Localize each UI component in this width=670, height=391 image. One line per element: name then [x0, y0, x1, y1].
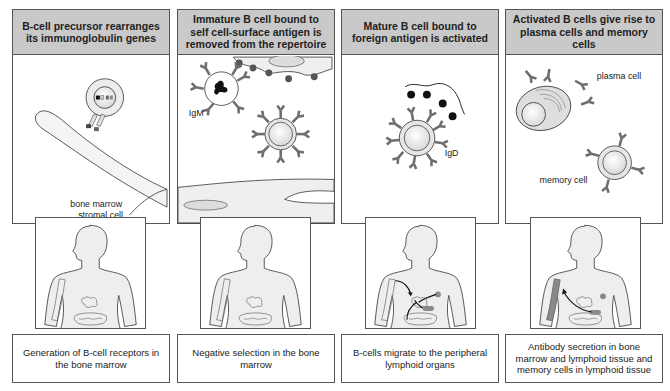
body-diagram-1 [35, 217, 146, 329]
bone-marrow-stromal-cell-illustration: bone marrow stromal cell [13, 56, 169, 224]
caption-1: Generation of B-cell receptors in the bo… [12, 334, 170, 383]
caption-3: B-cells migrate to the peripheral lympho… [341, 334, 499, 383]
panel-3: Mature B cell bound to foreign antigen i… [341, 9, 499, 224]
caption-2: Negative selection in the bone marrow [177, 334, 335, 383]
panel-3-header: Mature B cell bound to foreign antigen i… [342, 10, 498, 55]
plasma-and-memory-cells-illustration: plasma cell memory cell [506, 56, 662, 224]
panel-4-header: Activated B cells give rise to plasma ce… [506, 10, 662, 55]
mature-b-cell-activation-illustration: IgD [342, 56, 498, 224]
panel-2: Immature B cell bound to self cell-surfa… [177, 9, 335, 224]
igm-label: IgM [189, 108, 204, 118]
panel-2-header: Immature B cell bound to self cell-surfa… [178, 10, 334, 55]
body-diagram-3 [365, 217, 476, 329]
stromal-label: bone marrow [70, 199, 122, 209]
memory-cell-label: memory cell [540, 175, 588, 185]
body-diagram-2 [200, 217, 311, 329]
plasma-cell-label: plasma cell [597, 71, 641, 81]
body-diagram-4 [530, 217, 641, 329]
panel-4: Activated B cells give rise to plasma ce… [505, 9, 663, 224]
negative-selection-illustration: IgM [178, 56, 334, 224]
igd-label: IgD [445, 148, 459, 158]
caption-4: Antibody secretion in bone marrow and ly… [505, 334, 663, 383]
panel-1-header: B-cell precursor rearranges its immunogl… [13, 10, 169, 55]
panel-1: B-cell precursor rearranges its immunogl… [12, 9, 170, 224]
